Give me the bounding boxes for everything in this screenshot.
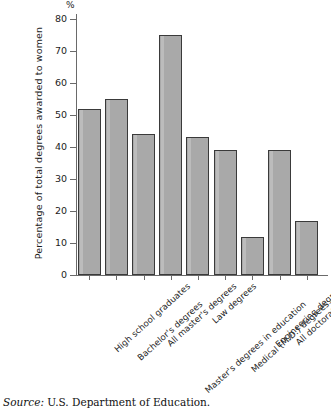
bar — [186, 137, 209, 275]
source-text: U.S. Department of Education. — [47, 396, 210, 408]
bar-highlight — [297, 222, 300, 274]
x-tick — [116, 276, 117, 280]
bar — [295, 221, 318, 275]
y-tick-label-30: 30 — [45, 173, 67, 184]
y-tick-label-80: 80 — [45, 13, 67, 24]
bar-highlight — [216, 151, 219, 274]
x-tick — [225, 276, 226, 280]
y-tick-50 — [70, 115, 76, 116]
y-tick-label-10: 10 — [45, 237, 67, 248]
bar — [105, 99, 128, 275]
bar — [132, 134, 155, 275]
x-axis-line — [76, 275, 328, 276]
bar-highlight — [243, 238, 246, 274]
x-tick — [198, 276, 199, 280]
y-axis-unit-label: % — [66, 0, 75, 10]
x-tick — [171, 276, 172, 280]
y-tick-label-20: 20 — [45, 205, 67, 216]
source-prefix: Source: — [3, 396, 44, 408]
source-note: Source: U.S. Department of Education. — [3, 396, 210, 408]
y-tick-60 — [70, 83, 76, 84]
y-tick-40 — [70, 147, 76, 148]
chart-figure: % Percentage of total degrees awarded to… — [0, 0, 331, 414]
y-tick-30 — [70, 179, 76, 180]
bar — [241, 237, 264, 275]
x-tick — [280, 276, 281, 280]
bar-highlight — [80, 110, 83, 274]
bar — [159, 35, 182, 275]
y-tick-20 — [70, 211, 76, 212]
bar-highlight — [107, 100, 110, 274]
y-tick-label-40: 40 — [45, 141, 67, 152]
x-axis-label: Bachelor's degrees — [136, 299, 205, 362]
y-tick-label-60: 60 — [45, 77, 67, 88]
y-tick-0 — [70, 275, 76, 276]
x-tick — [89, 276, 90, 280]
y-tick-70 — [70, 51, 76, 52]
x-tick — [252, 276, 253, 280]
x-tick — [307, 276, 308, 280]
bar — [268, 150, 291, 275]
y-tick-label-0: 0 — [45, 269, 67, 280]
bar — [78, 109, 101, 275]
bar — [214, 150, 237, 275]
bar-highlight — [134, 135, 137, 274]
x-tick — [144, 276, 145, 280]
y-tick-10 — [70, 243, 76, 244]
bar-highlight — [188, 138, 191, 274]
y-tick-label-50: 50 — [45, 109, 67, 120]
bar-highlight — [161, 36, 164, 274]
y-tick-label-70: 70 — [45, 45, 67, 56]
y-tick-80 — [70, 19, 76, 20]
bar-highlight — [270, 151, 273, 274]
